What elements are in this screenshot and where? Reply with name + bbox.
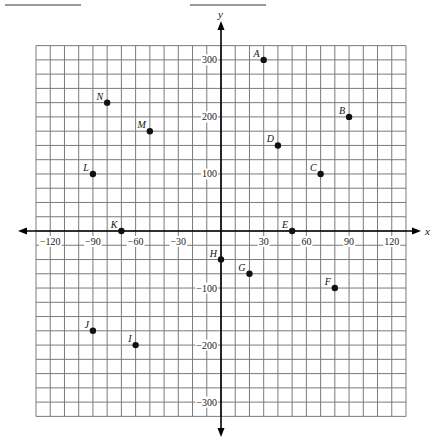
point-marker bbox=[289, 228, 295, 234]
point-A: A bbox=[253, 48, 267, 63]
point-marker bbox=[246, 271, 252, 277]
point-K: K bbox=[110, 219, 125, 234]
point-marker bbox=[90, 171, 96, 177]
point-marker bbox=[90, 328, 96, 334]
point-label: F bbox=[324, 276, 332, 287]
point-marker bbox=[104, 99, 110, 105]
x-axis-right-arrow-icon bbox=[412, 228, 421, 235]
point-label: A bbox=[253, 48, 261, 59]
x-axis-label: x bbox=[424, 225, 430, 237]
x-axis-left-arrow-icon bbox=[18, 228, 27, 235]
point-C: C bbox=[310, 162, 324, 177]
y-tick-label: 300 bbox=[202, 54, 217, 65]
point-marker bbox=[218, 256, 224, 262]
point-label: I bbox=[127, 333, 132, 344]
point-marker bbox=[275, 142, 281, 148]
point-label: L bbox=[82, 162, 89, 173]
x-tick-label: −30 bbox=[170, 236, 186, 247]
point-H: H bbox=[209, 248, 224, 263]
point-L: L bbox=[82, 162, 96, 177]
x-tick-label: 60 bbox=[301, 236, 311, 247]
data-points: ABCDEFGHIJKLMN bbox=[82, 48, 352, 348]
point-label: N bbox=[95, 91, 104, 102]
x-tick-label: 90 bbox=[344, 236, 354, 247]
y-tick-label: −200 bbox=[196, 340, 217, 351]
x-tick-label: 30 bbox=[259, 236, 269, 247]
point-label: C bbox=[310, 162, 317, 173]
point-F: F bbox=[324, 276, 338, 291]
point-marker bbox=[147, 128, 153, 134]
point-D: D bbox=[266, 133, 281, 148]
y-axis-up-arrow-icon bbox=[218, 21, 225, 30]
point-N: N bbox=[95, 91, 110, 106]
y-axis-label: y bbox=[217, 8, 223, 20]
point-marker bbox=[346, 114, 352, 120]
point-marker bbox=[118, 228, 124, 234]
y-tick-label: 100 bbox=[202, 168, 217, 179]
axes: xy bbox=[18, 8, 430, 437]
x-tick-label: −90 bbox=[85, 236, 101, 247]
coordinate-plane: xy −120−90−60−30306090120300200100−100−2… bbox=[0, 0, 444, 448]
point-G: G bbox=[238, 262, 252, 277]
point-label: D bbox=[266, 133, 275, 144]
point-label: H bbox=[209, 248, 218, 259]
x-tick-label: −60 bbox=[128, 236, 144, 247]
point-marker bbox=[132, 342, 138, 348]
point-label: J bbox=[84, 319, 89, 330]
y-axis-down-arrow-icon bbox=[218, 428, 225, 437]
point-marker bbox=[260, 57, 266, 63]
point-I: I bbox=[127, 333, 139, 348]
point-label: B bbox=[339, 105, 345, 116]
y-tick-label: 200 bbox=[202, 111, 217, 122]
point-M: M bbox=[137, 119, 154, 134]
point-marker bbox=[332, 285, 338, 291]
x-tick-label: 120 bbox=[384, 236, 399, 247]
point-E: E bbox=[281, 219, 295, 234]
point-J: J bbox=[84, 319, 96, 334]
point-label: G bbox=[238, 262, 245, 273]
point-label: K bbox=[110, 219, 119, 230]
point-label: E bbox=[281, 219, 288, 230]
point-marker bbox=[317, 171, 323, 177]
point-label: M bbox=[137, 119, 147, 130]
x-tick-label: −120 bbox=[40, 236, 61, 247]
y-tick-label: −300 bbox=[196, 397, 217, 408]
point-B: B bbox=[339, 105, 352, 120]
y-tick-label: −100 bbox=[196, 283, 217, 294]
